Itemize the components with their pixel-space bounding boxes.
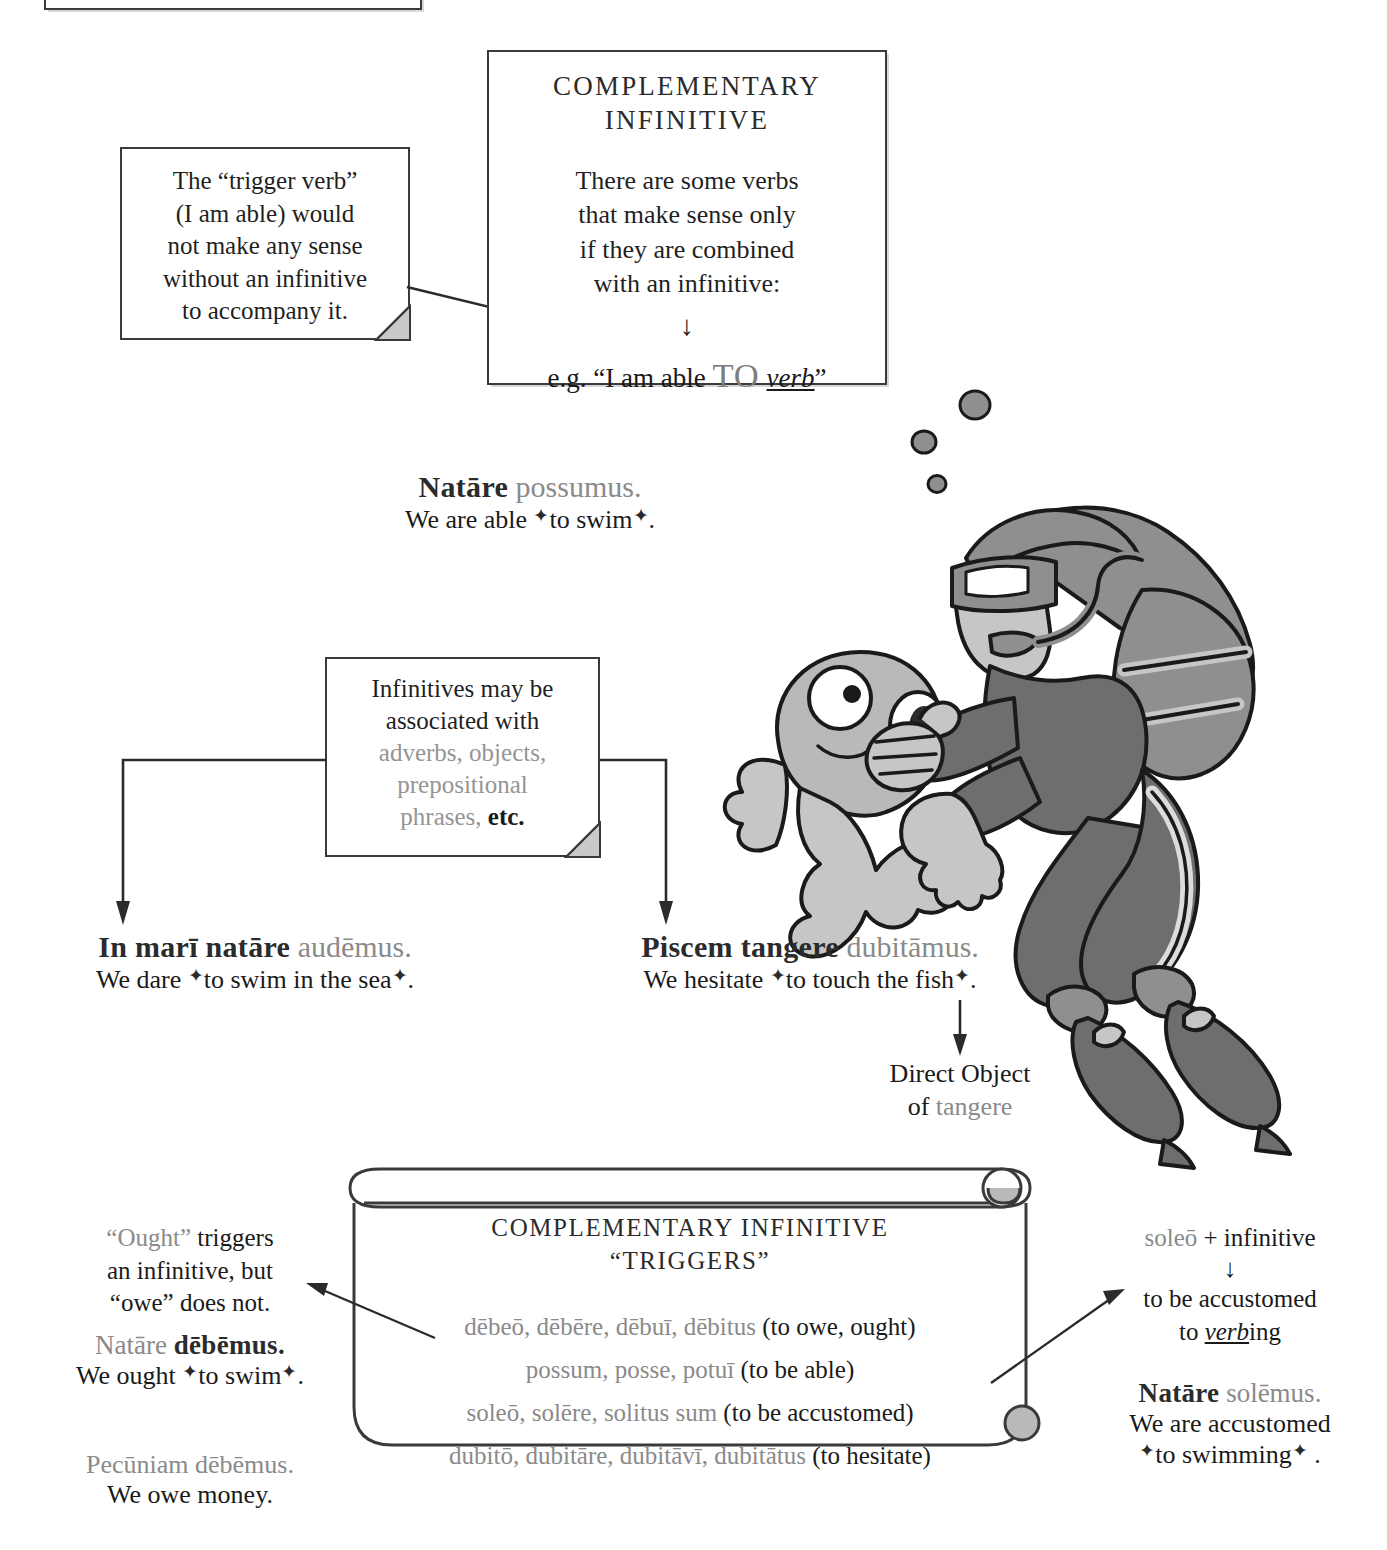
trigger-entry: soleō, solēre, solitus sum (to be accust… xyxy=(370,1391,1010,1434)
right-example-english-line-1: We are accustomed xyxy=(1085,1408,1375,1439)
infinitives-note-gray-3: phrases, etc. xyxy=(337,801,588,833)
partial-top-box xyxy=(44,0,422,10)
example-prefix: e.g. “I am able xyxy=(547,363,712,393)
example-sea: In marī natāre audēmus. We dare ✦to swim… xyxy=(20,930,490,995)
scroll-title-line-1: COMPLEMENTARY INFINITIVE xyxy=(380,1212,1000,1245)
left-example-ought-english: We ought ✦to swim✦. xyxy=(45,1360,335,1391)
trigger-note-line-1: The “trigger verb” xyxy=(134,165,396,198)
infinitives-note-line-2: associated with xyxy=(337,705,588,737)
trigger-verb-note: The “trigger verb” (I am able) would not… xyxy=(120,147,410,340)
example-swim-english: We are able ✦to swim✦. xyxy=(330,504,730,535)
right-commentary-note: soleō + infinitive ↓ to be accustomed to… xyxy=(1090,1222,1370,1348)
bracket-arrow-left xyxy=(115,755,335,935)
folded-corner-icon xyxy=(566,823,600,857)
arrow-to-direct-object xyxy=(952,1000,982,1060)
left-note-line-3: “owe” does not. xyxy=(55,1287,325,1320)
example-verb-word: verb xyxy=(767,363,815,393)
right-note-gloss-line-2: to verbing xyxy=(1090,1316,1370,1349)
right-example-latin: Natāre solēmus. xyxy=(1085,1378,1375,1408)
right-example-accustomed: Natāre solēmus. We are accustomed ✦to sw… xyxy=(1085,1378,1375,1471)
main-box-body-line-4: with an infinitive: xyxy=(489,267,885,302)
left-note-line-2: an infinitive, but xyxy=(55,1255,325,1288)
triggers-list: dēbeō, dēbēre, dēbuī, dēbitus (to owe, o… xyxy=(370,1305,1010,1477)
down-arrow-icon: ↓ xyxy=(1090,1255,1370,1284)
trigger-entry: possum, posse, potuī (to be able) xyxy=(370,1348,1010,1391)
example-suffix: ” xyxy=(815,363,827,393)
direct-object-line-1: Direct Object xyxy=(835,1058,1085,1091)
complementary-infinitive-box: COMPLEMENTARY INFINITIVE There are some … xyxy=(487,50,887,385)
trigger-note-line-3: not make any sense xyxy=(134,230,396,263)
example-swim: Natāre possumus. We are able ✦to swim✦. xyxy=(330,470,730,535)
right-example-english-line-2: ✦to swimming✦ . xyxy=(1085,1439,1375,1470)
left-example-owe: Pecūniam dēbēmus. We owe money. xyxy=(45,1450,335,1510)
trigger-note-line-2: (I am able) would xyxy=(134,198,396,231)
infinitives-note-gray-1: adverbs, objects, xyxy=(337,737,588,769)
trigger-note-line-4: without an infinitive xyxy=(134,263,396,296)
infinitives-association-note: Infinitives may be associated with adver… xyxy=(325,657,600,857)
main-box-example: e.g. “I am able TO verb” xyxy=(489,356,885,395)
left-commentary-note: “Ought” triggers an infinitive, but “owe… xyxy=(55,1222,325,1320)
example-sea-english: We dare ✦to swim in the sea✦. xyxy=(20,964,490,995)
left-note-line-1: “Ought” triggers xyxy=(55,1222,325,1255)
trigger-entry: dēbeō, dēbēre, dēbuī, dēbitus (to owe, o… xyxy=(370,1305,1010,1348)
bracket-arrow-right xyxy=(598,755,688,935)
example-fish-latin: Piscem tangere dubitāmus. xyxy=(570,930,1050,964)
main-box-title-line-1: COMPLEMENTARY xyxy=(489,70,885,104)
trigger-note-line-5: to accompany it. xyxy=(134,295,396,328)
example-swim-latin: Natāre possumus. xyxy=(330,470,730,504)
scroll-title: COMPLEMENTARY INFINITIVE “TRIGGERS” xyxy=(380,1212,1000,1277)
down-arrow-icon: ↓ xyxy=(489,310,885,342)
right-note-gloss-line-1: to be accustomed xyxy=(1090,1283,1370,1316)
example-fish: Piscem tangere dubitāmus. We hesitate ✦t… xyxy=(570,930,1050,995)
infinitives-note-gray-2: prepositional xyxy=(337,769,588,801)
main-box-body-line-1: There are some verbs xyxy=(489,164,885,199)
left-example-ought: Natāre dēbēmus. We ought ✦to swim✦. xyxy=(45,1330,335,1391)
direct-object-line-2: of tangere xyxy=(835,1091,1085,1124)
main-box-body-line-3: if they are combined xyxy=(489,233,885,268)
example-to-word: TO xyxy=(712,356,759,394)
left-example-ought-latin: Natāre dēbēmus. xyxy=(45,1330,335,1360)
main-box-title-line-2: INFINITIVE xyxy=(489,104,885,138)
infinitives-note-line-1: Infinitives may be xyxy=(337,673,588,705)
left-example-owe-latin: Pecūniam dēbēmus. xyxy=(45,1450,335,1479)
right-note-head: soleō + infinitive xyxy=(1090,1222,1370,1255)
left-example-owe-english: We owe money. xyxy=(45,1479,335,1510)
example-sea-latin: In marī natāre audēmus. xyxy=(20,930,490,964)
scroll-title-line-2: “TRIGGERS” xyxy=(380,1245,1000,1278)
main-box-body-line-2: that make sense only xyxy=(489,198,885,233)
trigger-entry: dubitō, dubitāre, dubitāvī, dubitātus (t… xyxy=(370,1434,1010,1477)
example-fish-english: We hesitate ✦to touch the fish✦. xyxy=(570,964,1050,995)
direct-object-label: Direct Object of tangere xyxy=(835,1058,1085,1123)
